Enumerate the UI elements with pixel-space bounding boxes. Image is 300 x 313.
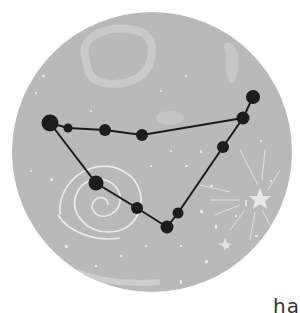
cloud-blob (156, 111, 184, 125)
star-bottom-right (173, 208, 184, 219)
star-right (237, 112, 250, 125)
star-top-mid-1 (99, 124, 111, 136)
star-right-lower (217, 141, 229, 153)
star-right-top (246, 90, 260, 104)
caption-text: ha (273, 296, 300, 313)
star-bottom-mid (131, 202, 143, 214)
star-spiral (89, 176, 104, 191)
star-left-small (64, 124, 73, 133)
capricorn-illustration (0, 0, 300, 313)
star-top-mid-2 (136, 129, 148, 141)
star-bottom (161, 221, 174, 234)
star-left-large (42, 115, 59, 132)
